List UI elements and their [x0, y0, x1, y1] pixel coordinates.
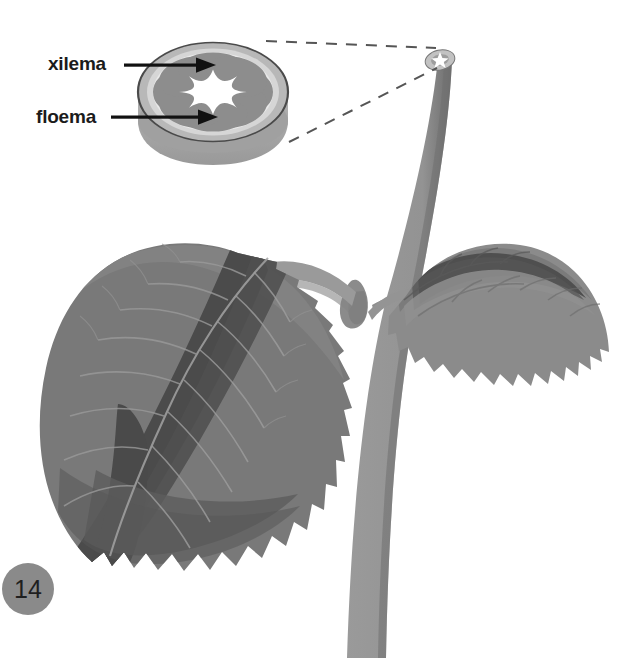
- figure-canvas: xilema floema 14: [0, 0, 640, 658]
- figure-number-circle: [0, 0, 640, 658]
- figure-number-label: 14: [0, 561, 56, 617]
